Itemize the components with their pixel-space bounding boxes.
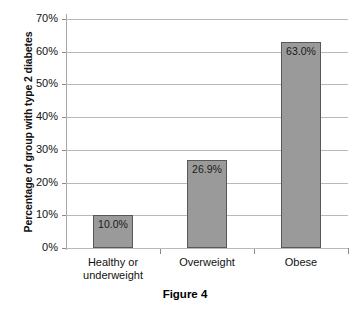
y-axis-tick-label: 60% xyxy=(0,45,58,57)
y-axis-tick-mark xyxy=(62,215,66,216)
bar-value-label: 63.0% xyxy=(282,45,320,57)
cut-off-text-row xyxy=(0,0,354,8)
figure-4-chart: Percentage of group with type 2 diabetes… xyxy=(0,0,354,311)
bar-value-label: 10.0% xyxy=(94,218,132,230)
y-axis-tick-mark xyxy=(62,84,66,85)
category-label-line: Healthy or xyxy=(66,256,160,269)
category-label: Obese xyxy=(254,256,348,269)
plot-area: 10.0%26.9%63.0% xyxy=(66,19,348,248)
figure-caption: Figure 4 xyxy=(0,288,354,300)
x-axis-tick-mark xyxy=(160,249,161,254)
y-axis-tick-label: 50% xyxy=(0,77,58,89)
y-axis-tick-label: 20% xyxy=(0,176,58,188)
y-axis-tick-mark xyxy=(62,117,66,118)
bar: 26.9% xyxy=(187,160,227,248)
y-axis-tick-mark xyxy=(62,248,66,249)
y-axis-tick-label: 0% xyxy=(0,241,58,253)
gridline xyxy=(66,248,348,249)
bar: 63.0% xyxy=(281,42,321,248)
y-axis-tick-label: 10% xyxy=(0,208,58,220)
category-label-line: underweight xyxy=(66,269,160,282)
y-axis-tick-mark xyxy=(62,52,66,53)
category-label-line: Overweight xyxy=(160,256,254,269)
y-axis-tick-mark xyxy=(62,150,66,151)
y-axis-tick-mark xyxy=(62,19,66,20)
category-label-line: Obese xyxy=(254,256,348,269)
y-axis-tick-label: 70% xyxy=(0,12,58,24)
y-axis-tick-label: 40% xyxy=(0,110,58,122)
category-label: Overweight xyxy=(160,256,254,269)
y-axis-tick-mark xyxy=(62,183,66,184)
gridline xyxy=(66,19,348,20)
bar-value-label: 26.9% xyxy=(188,163,226,175)
bar: 10.0% xyxy=(93,215,133,248)
x-axis-tick-mark xyxy=(254,249,255,254)
x-axis-tick-mark xyxy=(348,249,349,254)
y-axis-tick-label: 30% xyxy=(0,143,58,155)
category-label: Healthy orunderweight xyxy=(66,256,160,282)
